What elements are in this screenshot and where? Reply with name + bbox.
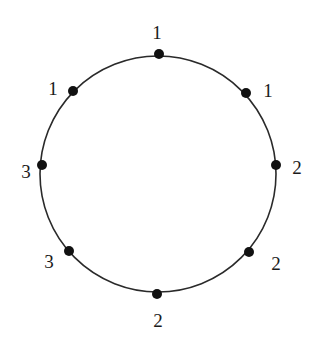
- node-lower-right: [244, 247, 254, 257]
- node-upper-right: [241, 88, 251, 98]
- node-label-left: 3: [21, 161, 31, 182]
- node-lower-left: [64, 246, 74, 256]
- node-group: [37, 49, 281, 299]
- node-label-bottom: 2: [153, 310, 163, 331]
- node-label-upper-right: 1: [263, 80, 273, 101]
- node-right: [271, 160, 281, 170]
- label-group: 11222331: [21, 22, 302, 331]
- diagram-svg: 11222331: [0, 0, 318, 347]
- node-top: [154, 49, 164, 59]
- node-label-lower-left: 3: [44, 251, 54, 272]
- node-label-right: 2: [292, 157, 302, 178]
- node-left: [37, 160, 47, 170]
- node-label-lower-right: 2: [271, 253, 281, 274]
- node-upper-left: [68, 86, 78, 96]
- cycle-diagram: 11222331: [0, 0, 318, 347]
- node-label-top: 1: [152, 22, 162, 43]
- node-bottom: [152, 289, 162, 299]
- node-label-upper-left: 1: [48, 78, 58, 99]
